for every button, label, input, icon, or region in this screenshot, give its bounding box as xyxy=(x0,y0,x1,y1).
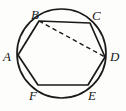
vertex-label-c: C xyxy=(92,9,101,22)
geometry-figure: B C A D F E xyxy=(0,0,126,111)
vertex-label-a: A xyxy=(3,50,11,63)
vertex-label-d: D xyxy=(110,50,119,63)
dashed-diagonal-bd xyxy=(39,21,105,57)
vertex-label-f: F xyxy=(29,89,37,102)
geometry-diagram-svg xyxy=(0,0,126,111)
vertex-label-e: E xyxy=(88,89,96,102)
inscribed-hexagon xyxy=(18,21,105,85)
vertex-label-b: B xyxy=(31,8,39,21)
